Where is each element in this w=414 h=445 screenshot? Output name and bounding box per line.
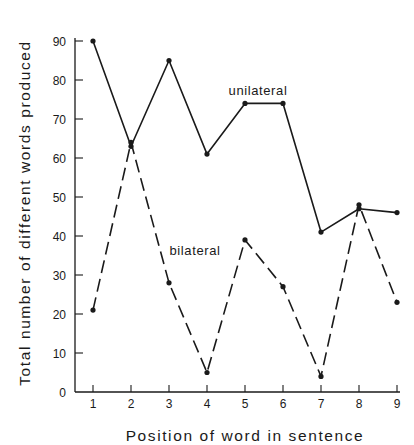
- bilateral-line: [93, 142, 397, 376]
- unilateral-point-marker: [204, 152, 209, 157]
- bilateral-point-marker: [242, 237, 247, 242]
- x-tick-label: 6: [280, 397, 287, 411]
- y-tick-label: 60: [53, 152, 67, 166]
- y-tick-label: 0: [59, 386, 66, 400]
- x-tick-label: 9: [394, 397, 401, 411]
- x-tick-label: 4: [204, 397, 211, 411]
- x-axis-title: Position of word in sentence: [126, 427, 365, 444]
- unilateral-label: unilateral: [229, 83, 288, 98]
- x-tick-label: 3: [166, 397, 173, 411]
- bilateral-label: bilateral: [170, 243, 221, 258]
- y-axis-title: Total number of different words produced: [16, 40, 33, 385]
- x-tick-label: 5: [242, 397, 249, 411]
- line-chart: 0102030405060708090 123456789 unilateral…: [0, 0, 414, 445]
- x-tick-label: 7: [318, 397, 325, 411]
- x-tick-label: 1: [90, 397, 97, 411]
- bilateral-point-marker: [90, 308, 95, 313]
- bilateral-point-marker: [318, 374, 323, 379]
- bilateral-point-marker: [394, 300, 399, 305]
- unilateral-point-marker: [90, 38, 95, 43]
- x-axis-ticks: 123456789: [90, 385, 401, 411]
- y-tick-label: 10: [53, 347, 67, 361]
- bilateral-point-marker: [356, 202, 361, 207]
- unilateral-point-marker: [318, 230, 323, 235]
- unilateral-line: [93, 41, 397, 232]
- x-tick-label: 2: [128, 397, 135, 411]
- y-tick-label: 90: [53, 35, 67, 49]
- bilateral-point-marker: [166, 280, 171, 285]
- bilateral-point-marker: [204, 370, 209, 375]
- y-tick-label: 50: [53, 191, 67, 205]
- y-tick-label: 40: [53, 230, 67, 244]
- unilateral-point-marker: [280, 101, 285, 106]
- y-tick-label: 70: [53, 113, 67, 127]
- y-tick-label: 80: [53, 74, 67, 88]
- y-tick-label: 30: [53, 269, 67, 283]
- bilateral-point-marker: [280, 284, 285, 289]
- unilateral-point-marker: [394, 210, 399, 215]
- y-tick-label: 20: [53, 308, 67, 322]
- x-tick-label: 8: [356, 397, 363, 411]
- unilateral-point-marker: [166, 58, 171, 63]
- unilateral-point-marker: [242, 101, 247, 106]
- y-axis-ticks: 0102030405060708090: [53, 35, 83, 400]
- bilateral-point-marker: [128, 140, 133, 145]
- series-labels: unilateralbilateral: [170, 83, 288, 258]
